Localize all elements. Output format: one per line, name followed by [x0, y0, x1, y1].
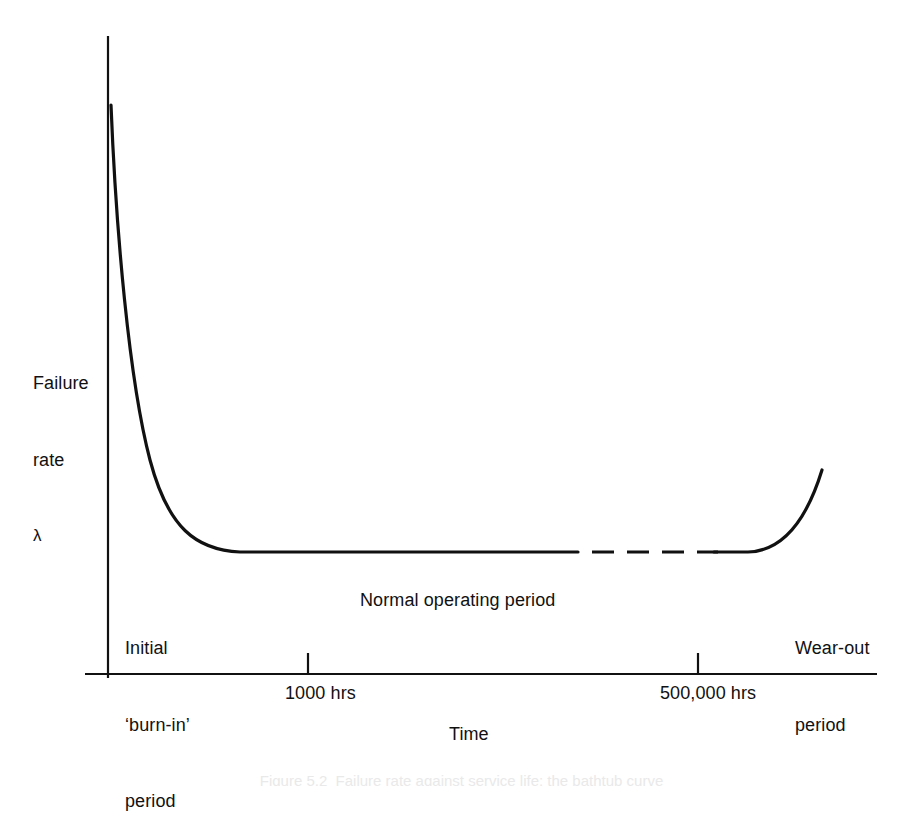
region-label-wear-out-line-1: Wear-out: [795, 636, 870, 662]
region-label-normal-operating: Normal operating period: [360, 588, 555, 614]
lambda-symbol: λ: [33, 524, 89, 548]
y-axis-label: Failure rate λ: [33, 320, 89, 600]
y-axis-label-line-2: rate: [33, 448, 89, 474]
x-axis-label: Time: [449, 722, 489, 748]
x-tick-label-500000-hrs: 500,000 hrs: [660, 681, 756, 707]
region-label-burn-in-line-3: period: [125, 789, 190, 815]
curve-wear-out: [714, 470, 822, 552]
region-label-wear-out: Wear-out period: [795, 585, 870, 789]
region-label-burn-in-line-1: Initial: [125, 636, 190, 662]
region-label-burn-in-line-2: ‘burn-in’: [125, 713, 190, 739]
figure-caption: Figure 5.2 Failure rate against service …: [0, 772, 923, 786]
region-label-wear-out-line-2: period: [795, 713, 870, 739]
curve-burn-in-and-plateau: [111, 105, 578, 552]
x-tick-label-1000-hrs: 1000 hrs: [285, 681, 356, 707]
y-axis-label-line-1: Failure: [33, 371, 89, 397]
